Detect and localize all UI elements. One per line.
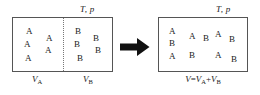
molecule-a: A (169, 52, 176, 61)
molecule-a: A (45, 46, 52, 55)
gas-mixing-diagram: T, p A A A A A B B B B B VA VB T, p A A … (0, 0, 260, 95)
before-state-label-tp: T, p (80, 4, 95, 14)
volume-label-b-symbol: V (83, 74, 89, 84)
molecule-b: B (189, 51, 195, 60)
molecule-a: A (24, 40, 31, 49)
molecule-a: A (169, 27, 176, 36)
molecule-b: B (203, 34, 209, 43)
molecule-b: B (77, 54, 83, 63)
right-arrow-icon (120, 37, 150, 57)
after-state-label-tp: T, p (216, 4, 231, 14)
molecule-b: B (75, 27, 81, 36)
molecule-b: B (229, 35, 235, 44)
molecule-a: A (215, 30, 222, 39)
before-container: A A A A A B B B B B (12, 17, 113, 72)
after-container: A A B A B B A B A B (158, 17, 248, 72)
molecule-a: A (46, 34, 53, 43)
volume-label-a-subscript: A (37, 78, 42, 85)
volume-eq-term2: V (211, 74, 217, 84)
volume-label-b-subscript: B (89, 78, 93, 85)
molecule-a: A (25, 54, 32, 63)
molecule-b: B (74, 40, 80, 49)
molecule-a: A (215, 51, 222, 60)
volume-eq-term1-subscript: A (201, 78, 206, 85)
molecule-a: A (26, 27, 33, 36)
removable-partition (63, 18, 64, 71)
volume-equation-total: V=VA+VB (158, 74, 248, 84)
molecule-b: B (231, 55, 237, 64)
molecule-b: B (95, 46, 101, 55)
molecule-b: B (169, 39, 175, 48)
molecule-a: A (189, 32, 196, 41)
molecule-b: B (93, 34, 99, 43)
volume-label-b: VB (63, 74, 113, 84)
volume-eq-term2-subscript: B (217, 78, 221, 85)
volume-label-a: VA (12, 74, 62, 84)
